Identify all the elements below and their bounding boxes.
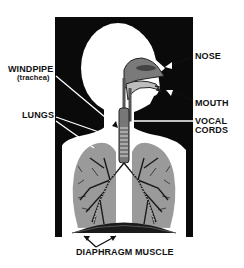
trachea-sublabel: (trachea) bbox=[17, 74, 50, 82]
vocal-cords-label-line2: CORDS bbox=[195, 126, 228, 135]
nose-label: NOSE bbox=[195, 52, 221, 61]
diaphragm-label: DIAPHRAGM MUSCLE bbox=[76, 248, 174, 257]
lungs-label: LUNGS bbox=[22, 111, 54, 120]
mouth-label: MOUTH bbox=[195, 99, 229, 108]
